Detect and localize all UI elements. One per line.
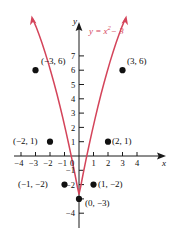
equation-tail: − 3 xyxy=(111,26,124,36)
x-tick-label-neg4: −4 xyxy=(15,159,24,168)
x-tick-label-3: 3 xyxy=(121,159,125,168)
point-label-0-neg3: (0, −3) xyxy=(85,199,110,208)
x-tick-label-2: 2 xyxy=(106,159,110,168)
y-tick-label-1: 1 xyxy=(71,138,75,147)
point-label-1-neg2: (1, −2) xyxy=(98,180,123,189)
x-tick-label-neg2: −2 xyxy=(44,159,53,168)
point-1-neg2[interactable] xyxy=(90,182,96,188)
point-0-neg3[interactable] xyxy=(76,196,82,202)
point-2-1[interactable] xyxy=(105,139,111,145)
point-label-neg2-1: (−2, 1) xyxy=(13,137,38,146)
equation-base: y = x xyxy=(89,26,108,36)
y-tick-label-6: 6 xyxy=(71,66,75,75)
equation-label: y = x2− 3 xyxy=(89,27,124,36)
x-tick-label-1: 1 xyxy=(92,159,96,168)
point-label-2-1: (2, 1) xyxy=(112,137,132,146)
point-neg2-1[interactable] xyxy=(47,139,53,145)
y-tick-label-neg2: −2 xyxy=(66,181,75,190)
x-tick-label-4: 4 xyxy=(135,159,139,168)
parabola-graph-figure: y x y = x2− 3 0 −4 −3 −2 −1 1 2 3 4 7 6 … xyxy=(0,0,173,240)
point-label-3-6: (3, 6) xyxy=(127,57,147,66)
point-label-neg3-6: (−3, 6) xyxy=(41,57,66,66)
x-tick-label-neg3: −3 xyxy=(29,159,38,168)
point-neg3-6[interactable] xyxy=(32,67,38,73)
y-tick-label-4: 4 xyxy=(71,95,75,104)
y-tick-label-7: 7 xyxy=(71,52,75,61)
y-tick-label-neg4: −4 xyxy=(66,209,75,218)
y-tick-label-3: 3 xyxy=(71,109,75,118)
y-axis-label: y xyxy=(73,17,77,26)
y-tick-label-2: 2 xyxy=(71,124,75,133)
y-tick-label-neg1: −1 xyxy=(66,166,75,175)
x-axis-label: x xyxy=(162,159,166,168)
point-label-neg1-neg2: (−1, −2) xyxy=(18,180,48,189)
y-tick-label-5: 5 xyxy=(71,81,75,90)
point-3-6[interactable] xyxy=(119,67,125,73)
